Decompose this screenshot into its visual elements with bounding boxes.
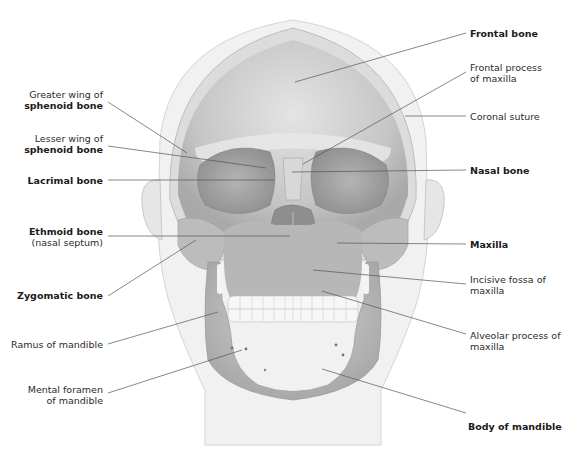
label-line: maxilla	[470, 285, 546, 296]
label-frontal-process-maxilla: Frontal process of maxilla	[470, 62, 542, 84]
label-coronal-suture: Coronal suture	[470, 111, 540, 122]
label-lacrimal-bone: Lacrimal bone	[28, 175, 103, 186]
label-greater-wing-sphenoid: Greater wing of sphenoid bone	[24, 89, 103, 111]
label-line: sphenoid bone	[24, 100, 103, 111]
label-line: Frontal bone	[470, 28, 538, 39]
label-line: Alveolar process of	[470, 330, 561, 341]
label-line: (nasal septum)	[29, 237, 103, 248]
label-line: Incisive fossa of	[470, 274, 546, 285]
label-incisive-fossa: Incisive fossa of maxilla	[470, 274, 546, 296]
skull-anterior-diagram: Greater wing of sphenoid bone Lesser win…	[0, 0, 585, 455]
label-line: Maxilla	[470, 239, 508, 250]
label-line: Frontal process	[470, 62, 542, 73]
label-mental-foramen: Mental foramen of mandible	[28, 384, 103, 406]
label-lesser-wing-sphenoid: Lesser wing of sphenoid bone	[24, 133, 103, 155]
label-line: Ramus of mandible	[11, 339, 103, 350]
label-ethmoid-bone: Ethmoid bone (nasal septum)	[29, 226, 103, 248]
label-alveolar-process: Alveolar process of maxilla	[470, 330, 561, 352]
label-line: Body of mandible	[468, 421, 562, 432]
label-ramus-of-mandible: Ramus of mandible	[11, 339, 103, 350]
label-line: sphenoid bone	[24, 144, 103, 155]
label-line: Zygomatic bone	[17, 290, 103, 301]
label-maxilla: Maxilla	[470, 239, 508, 250]
label-line: Greater wing of	[24, 89, 103, 100]
label-line: of maxilla	[470, 73, 542, 84]
label-line: Lesser wing of	[24, 133, 103, 144]
teeth	[228, 296, 358, 322]
label-nasal-bone: Nasal bone	[470, 165, 530, 176]
label-zygomatic-bone: Zygomatic bone	[17, 290, 103, 301]
label-line: Mental foramen	[28, 384, 103, 395]
label-frontal-bone: Frontal bone	[470, 28, 538, 39]
label-line: of mandible	[28, 395, 103, 406]
label-line: Lacrimal bone	[28, 175, 103, 186]
label-line: Coronal suture	[470, 111, 540, 122]
label-line: Nasal bone	[470, 165, 530, 176]
label-body-of-mandible: Body of mandible	[468, 421, 562, 432]
label-line: Ethmoid bone	[29, 226, 103, 237]
label-line: maxilla	[470, 341, 561, 352]
